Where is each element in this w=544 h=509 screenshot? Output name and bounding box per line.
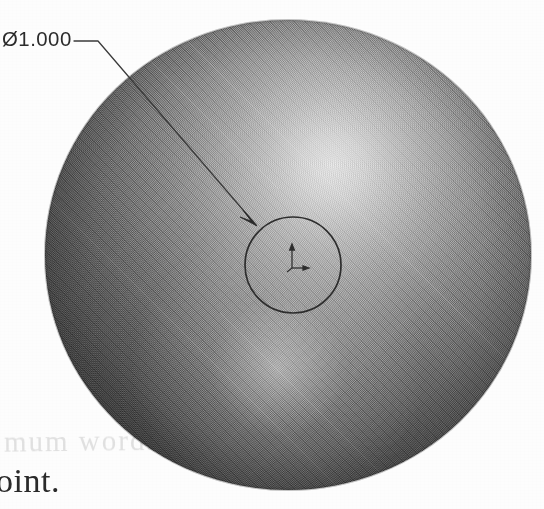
center-hole-circle — [245, 217, 341, 313]
diameter-dimension-label: Ø1.000 — [2, 27, 72, 51]
coordinate-origin-triad-icon — [287, 244, 309, 272]
leader-arrowhead — [240, 210, 257, 226]
dimension-leader-line — [74, 41, 256, 225]
drawing-linework — [0, 0, 544, 509]
page-body-text: oint. — [0, 462, 60, 500]
drawing-page: mum words Ø1.000 oint. — [0, 0, 544, 509]
